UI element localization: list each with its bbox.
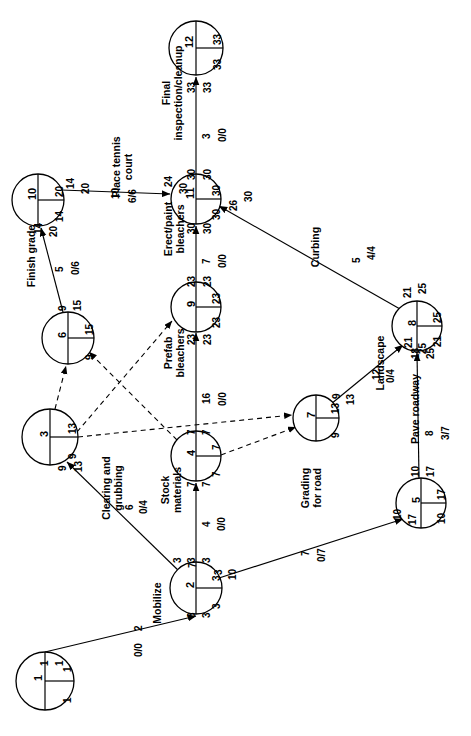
node-10-number: 10 bbox=[26, 188, 38, 200]
node-2-top-right: 3 bbox=[211, 575, 222, 581]
edge-finish-ls: 15 bbox=[72, 300, 83, 311]
edge-pave-es: 10 bbox=[410, 466, 421, 477]
edge-clearing-es: 3 bbox=[172, 557, 183, 563]
edge-stock-es: 3 bbox=[186, 557, 197, 563]
edge-tennis-ef: 24 bbox=[163, 176, 174, 187]
edge-grading-ef: 10 bbox=[392, 509, 403, 520]
edge-erect-float: 0/0 bbox=[217, 254, 228, 268]
edge-clearing-lf: 13 bbox=[73, 461, 84, 472]
node-5-bottom-right: 10 bbox=[436, 513, 447, 524]
node-8-top-right: 25 bbox=[432, 312, 443, 323]
activity-label-final-inspection-cleanup: Final inspection/cleanup bbox=[161, 34, 185, 152]
node-9-bottom-right: 23 bbox=[211, 317, 222, 328]
edge-erect-es: 23 bbox=[186, 276, 197, 287]
edge-prefab-duration: 16 bbox=[201, 393, 212, 404]
edge-grading-es: 3 bbox=[213, 569, 224, 575]
edge-stock-float: 0/0 bbox=[216, 517, 227, 531]
edge-final-ef: 33 bbox=[186, 82, 197, 93]
edge-erect-duration: 7 bbox=[201, 258, 212, 264]
arrow-mobilize bbox=[45, 616, 196, 652]
edge-prefab-lf: 23 bbox=[202, 334, 213, 345]
edge-landscape-float: 0/4 bbox=[385, 369, 396, 383]
edge-curbing-float: 4/4 bbox=[366, 246, 377, 260]
edge-mobilize-ls: 1 bbox=[54, 660, 65, 666]
edge-curbing-ls: 25 bbox=[417, 283, 428, 294]
edge-finish-duration: 5 bbox=[54, 266, 65, 272]
node-3-top-right: 13 bbox=[67, 423, 78, 434]
edge-erect-lf: 30 bbox=[202, 223, 213, 234]
edge-erect-ls: 23 bbox=[202, 276, 213, 287]
activity-label-mobilize: Mobilize bbox=[152, 558, 164, 648]
edge-tennis-lf: 30 bbox=[178, 183, 189, 194]
edge-final-duration: 3 bbox=[201, 133, 212, 139]
node-8-number: 8 bbox=[406, 320, 418, 326]
node-2-number: 2 bbox=[184, 582, 196, 588]
edge-prefab-es: 7 bbox=[186, 429, 197, 435]
edge-landscape-ef: 21 bbox=[403, 337, 414, 348]
edge-clearing-ls: 7 bbox=[187, 562, 198, 568]
node-9-number: 9 bbox=[185, 301, 197, 307]
edge-final-es: 30 bbox=[186, 169, 197, 180]
node-6-bottom-right: 9 bbox=[84, 354, 95, 360]
solid-activity-arrows bbox=[41, 77, 419, 652]
activity-label-stock-materials: Stock materials bbox=[160, 446, 184, 534]
edge-curbing-ef: 26 bbox=[228, 200, 239, 211]
edge-final-float: 0/0 bbox=[217, 128, 228, 142]
edge-stock-lf: 7 bbox=[201, 481, 212, 487]
edge-curbing-duration: 5 bbox=[351, 257, 362, 263]
edge-pave-ls: 17 bbox=[425, 466, 436, 477]
edge-landscape-duration: 12 bbox=[371, 369, 382, 380]
node-5-top-right: 17 bbox=[436, 489, 447, 500]
node-3-bottom-right: 9 bbox=[67, 453, 78, 459]
activity-label-erect-paint-bleachers: Erect/paint bleachers bbox=[163, 183, 187, 275]
node-11-bottom-right: 30 bbox=[211, 209, 222, 220]
edge-curbing-lf: 30 bbox=[243, 191, 254, 202]
activity-label-pave-roadway: Pave roadway bbox=[410, 360, 422, 458]
activity-label-clearing-grubbing: Clearing and grubbing bbox=[101, 440, 125, 536]
dummy-3-to-6 bbox=[55, 366, 66, 409]
edge-mobilize-duration: 2 bbox=[133, 625, 144, 631]
edge-tennis-es: 14 bbox=[65, 178, 76, 189]
edge-erect-ef: 30 bbox=[186, 223, 197, 234]
node-10-top-right: 20 bbox=[54, 186, 65, 197]
diagram-vector-layer bbox=[0, 0, 471, 736]
node-5-number: 5 bbox=[410, 497, 422, 503]
edge-finish-lf: 20 bbox=[48, 226, 59, 237]
activity-label-prefab-bleachers: Prefab bleachers bbox=[163, 309, 187, 397]
edge-mobilize-lf: 3 bbox=[201, 612, 212, 618]
edge-curbing-es: 21 bbox=[402, 287, 413, 298]
activity-label-landscape: Landscape bbox=[375, 320, 387, 406]
node-7-number: 7 bbox=[305, 412, 317, 418]
edge-pave-duration: 8 bbox=[424, 430, 435, 436]
node-1-bottom-right: 1 bbox=[62, 697, 73, 703]
edge-prefab-float: 0/0 bbox=[217, 392, 228, 406]
edge-pave-ef: 18 bbox=[410, 348, 421, 359]
dummy-4-to-7 bbox=[221, 427, 296, 455]
node-7-top-right: 13 bbox=[330, 403, 341, 414]
node-4-top-right: 7 bbox=[211, 444, 222, 450]
edge-grading-duration: 7 bbox=[300, 550, 311, 556]
edge-clearing-float: 0/4 bbox=[138, 500, 149, 514]
edge-pave-lf: 25 bbox=[425, 348, 436, 359]
node-1-number: 1 bbox=[32, 675, 44, 681]
edge-final-lf: 33 bbox=[202, 82, 213, 93]
edge-clearing-ef: 9 bbox=[57, 465, 68, 471]
edge-pave-float: 3/7 bbox=[440, 426, 451, 440]
node-10-bottom-right: 14 bbox=[54, 211, 65, 222]
edge-stock-duration: 4 bbox=[201, 521, 212, 527]
edge-landscape-ls: 13 bbox=[345, 394, 356, 405]
node-12-bottom-right: 33 bbox=[212, 59, 223, 70]
edge-stock-ls: 3 bbox=[201, 557, 212, 563]
activity-label-curbing: Curbing bbox=[310, 204, 322, 290]
node-3-number: 3 bbox=[38, 431, 50, 437]
edge-grading-lf: 17 bbox=[407, 514, 418, 525]
node-11-top-right: 30 bbox=[211, 185, 222, 196]
edge-final-ls: 30 bbox=[202, 169, 213, 180]
node-7-bottom-right: 9 bbox=[330, 432, 341, 438]
edge-mobilize-ef: 3 bbox=[186, 612, 197, 618]
edge-grading-ls: 10 bbox=[227, 569, 238, 580]
edge-prefab-ef: 23 bbox=[186, 334, 197, 345]
edge-finish-es: 9 bbox=[57, 305, 68, 311]
network-diagram-canvas: 1 1 1 2 3 3 3 13 9 4 7 7 5 17 10 6 15 9 … bbox=[0, 0, 471, 736]
node-9-top-right: 23 bbox=[211, 293, 222, 304]
